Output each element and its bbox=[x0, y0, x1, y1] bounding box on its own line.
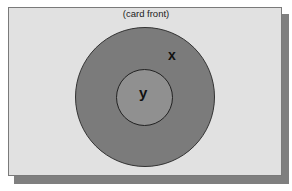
label-y: y bbox=[139, 84, 147, 101]
label-x: x bbox=[168, 47, 176, 63]
card-caption: (card front) bbox=[0, 8, 292, 19]
